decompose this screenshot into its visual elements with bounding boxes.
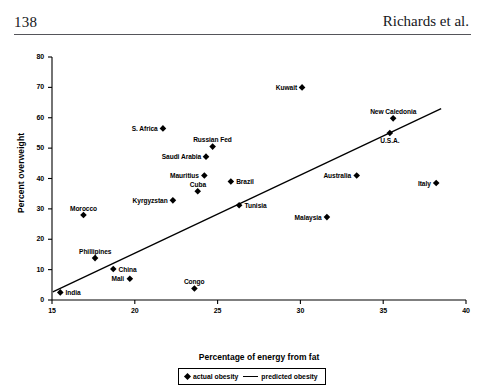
scatter-chart: Percent overweight Percentage of energy … [0,40,485,375]
x-tick-label: 30 [290,307,310,314]
x-axis-ticks [52,300,466,304]
data-point-marker [170,197,177,204]
y-tick-label: 20 [28,235,44,242]
header-divider [14,34,471,35]
x-tick-label: 15 [42,307,62,314]
data-point-label: Italy [418,180,431,187]
y-tick-label: 30 [28,205,44,212]
x-tick-label: 40 [456,307,476,314]
running-head: Richards et al. [383,13,469,30]
y-tick-label: 10 [28,266,44,273]
data-point-marker [80,212,87,219]
data-point-marker [433,180,440,187]
data-point-marker [203,153,210,160]
data-point-marker [127,275,134,282]
y-tick-label: 0 [28,296,44,303]
line-marker-icon [243,376,258,377]
data-point-label: Mauritius [170,172,199,179]
data-point-label: U.S.A. [380,137,399,144]
y-tick-label: 40 [28,175,44,182]
data-point-marker [110,266,117,273]
x-tick-label: 35 [373,307,393,314]
data-point-marker [92,255,99,262]
diamond-marker-icon [184,373,191,380]
legend-label-actual: actual obesity [193,373,238,380]
data-point-marker [160,125,167,132]
data-point-marker [194,188,201,195]
page-header: 138 Richards et al. [0,0,485,40]
data-point-label: New Caledonia [370,108,416,115]
legend-label-predicted: predicted obesity [261,373,317,380]
data-point-marker [324,214,331,221]
chart-legend: actual obesity predicted obesity [178,368,326,385]
x-tick-label: 20 [125,307,145,314]
predicted-obesity-line [53,109,441,292]
data-point-marker [228,178,235,185]
y-tick-label: 80 [28,53,44,60]
data-point-label: Saudi Arabia [162,153,201,160]
data-point-marker [209,143,216,150]
x-axis-title: Percentage of energy from fat [52,352,466,362]
data-point-label: Tunisia [244,202,266,209]
x-tick-label: 25 [208,307,228,314]
y-tick-label: 50 [28,144,44,151]
data-point-label: Kyrgyzstan [133,197,168,204]
y-axis-ticks [48,57,52,300]
data-point-label: Kuwait [276,84,297,91]
data-point-label: China [119,266,137,273]
data-point-label: Malaysia [295,214,322,221]
data-point-marker [387,130,394,137]
y-tick-label: 60 [28,114,44,121]
data-point-marker [390,115,397,122]
y-axis-title: Percent overweight [16,108,26,238]
data-point-label: Mali [112,275,125,282]
data-point-label: Congo [184,278,205,285]
data-point-marker [191,285,198,292]
y-tick-label: 70 [28,83,44,90]
data-point-label: S. Africa [132,125,158,132]
page-number: 138 [14,14,37,31]
legend-item-actual: actual obesity [185,373,238,380]
data-point-marker [353,172,360,179]
data-point-label: India [66,289,81,296]
data-point-marker [299,84,306,91]
data-point-label: Australia [323,172,351,179]
data-point-label: Brazil [236,178,254,185]
data-point-label: Morocco [70,205,97,212]
data-point-label: Cuba [190,181,206,188]
data-point-marker [57,289,64,296]
data-point-label: Phillipines [79,248,111,255]
actual-obesity-markers [57,84,440,296]
data-point-marker [201,172,208,179]
legend-item-predicted: predicted obesity [243,373,317,380]
data-point-label: Russian Fed [193,136,232,143]
